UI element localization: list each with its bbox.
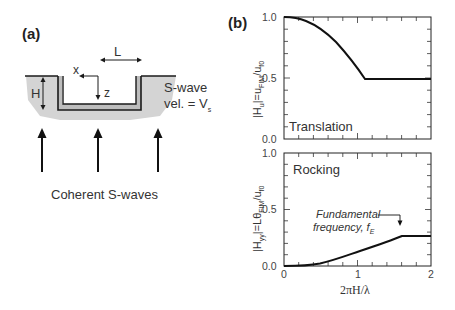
panel-b-plots (0, 0, 455, 310)
bottom-y-axis-label: |Hyy|=LθFIM/uf0 (251, 186, 265, 252)
top-ytick-1: 1.0 (262, 11, 277, 23)
xtick-2: 2 (428, 268, 434, 280)
bottom-ytick-0: 0.0 (262, 260, 277, 272)
x-axis-label: 2πH/λ (340, 283, 370, 298)
callout-arrow (378, 215, 403, 226)
top-ytick-0: 0.0 (262, 133, 277, 145)
bottom-ytick-1: 1.0 (262, 147, 277, 159)
rocking-annotation: Rocking (293, 162, 340, 177)
xtick-1: 1 (355, 268, 361, 280)
callout-line2: frequency, fE (313, 221, 374, 235)
translation-annotation: Translation (289, 119, 353, 134)
top-y-axis-label: |Hu|=uFIM/uf0 (251, 61, 265, 118)
translation-curve (284, 17, 431, 79)
callout-line1: Fundamental (316, 208, 380, 220)
xtick-0: 0 (281, 268, 287, 280)
